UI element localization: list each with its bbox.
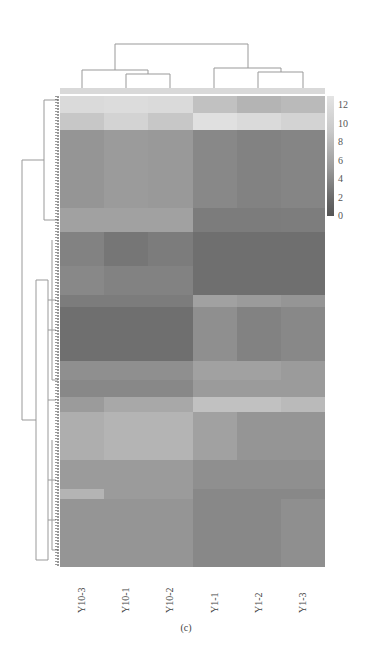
heatmap-cell xyxy=(281,295,325,307)
heatmap-cell xyxy=(281,499,325,567)
colorbar-tick-label: 6 xyxy=(338,156,343,166)
heatmap-cell xyxy=(148,266,192,295)
heatmap-cell xyxy=(237,96,281,113)
heatmap-cell xyxy=(148,489,192,499)
heatmap-cell xyxy=(104,499,148,567)
column-label: Y1-1 xyxy=(209,592,220,613)
heatmap-cell xyxy=(60,460,104,489)
heatmap-cell xyxy=(193,130,237,208)
heatmap-cell xyxy=(237,489,281,499)
colorbar-tick-label: 12 xyxy=(338,100,348,110)
heatmap-cell xyxy=(237,266,281,295)
heatmap-cell xyxy=(148,361,192,380)
heatmap-cell xyxy=(104,96,148,113)
column-annotation-bar xyxy=(60,88,325,94)
heatmap-cell xyxy=(148,130,192,208)
heatmap-cell xyxy=(60,295,104,307)
heatmap-cell xyxy=(60,130,104,208)
heatmap-cell xyxy=(193,380,237,397)
heatmap-cell xyxy=(60,266,104,295)
heatmap-figure: 121086420 Y10-3Y10-1Y10-2Y1-1Y1-2Y1-3 (c… xyxy=(0,0,372,657)
colorbar-tick-label: 8 xyxy=(338,137,343,147)
heatmap-cell xyxy=(281,130,325,208)
heatmap-cell xyxy=(281,232,325,266)
heatmap-cell xyxy=(237,113,281,130)
heatmap-cell xyxy=(60,412,104,461)
heatmap-cell xyxy=(104,412,148,461)
heatmap-column xyxy=(104,96,148,567)
heatmap-cell xyxy=(104,489,148,499)
heatmap-cell xyxy=(148,232,192,266)
column-label: Y1-2 xyxy=(253,592,264,613)
heatmap-body xyxy=(60,96,325,567)
column-label: Y10-1 xyxy=(120,587,131,613)
colorbar-tick-label: 4 xyxy=(338,174,343,184)
heatmap-cell xyxy=(60,113,104,130)
heatmap-cell xyxy=(193,113,237,130)
heatmap-cell xyxy=(148,460,192,489)
heatmap-cell xyxy=(237,232,281,266)
heatmap-cell xyxy=(193,361,237,380)
heatmap-cell xyxy=(193,460,237,489)
heatmap-cell xyxy=(281,460,325,489)
column-label: Y10-3 xyxy=(76,587,87,613)
heatmap-cell xyxy=(281,208,325,232)
heatmap-cell xyxy=(237,307,281,360)
heatmap-cell xyxy=(104,307,148,360)
heatmap-column xyxy=(148,96,192,567)
heatmap-column xyxy=(281,96,325,567)
heatmap-cell xyxy=(104,113,148,130)
heatmap-cell xyxy=(237,412,281,461)
colorbar-tick-label: 2 xyxy=(338,193,343,203)
heatmap-cell xyxy=(281,113,325,130)
heatmap-cell xyxy=(148,307,192,360)
heatmap-cell xyxy=(104,208,148,232)
heatmap-cell xyxy=(60,208,104,232)
heatmap-cell xyxy=(193,412,237,461)
heatmap-cell xyxy=(148,412,192,461)
heatmap-cell xyxy=(104,361,148,380)
heatmap-cell xyxy=(193,307,237,360)
colorbar-tick-label: 10 xyxy=(338,119,348,129)
heatmap-cell xyxy=(104,266,148,295)
heatmap-cell xyxy=(281,412,325,461)
heatmap-cell xyxy=(148,499,192,567)
heatmap-cell xyxy=(148,208,192,232)
heatmap-cell xyxy=(237,208,281,232)
column-label: Y1-3 xyxy=(297,592,308,613)
heatmap-column xyxy=(60,96,104,567)
colorbar xyxy=(327,96,334,216)
heatmap-cell xyxy=(237,460,281,489)
heatmap-column xyxy=(193,96,237,567)
heatmap-cell xyxy=(148,397,192,412)
colorbar-tick-label: 0 xyxy=(338,211,343,221)
heatmap-cell xyxy=(281,361,325,380)
heatmap-cell xyxy=(193,499,237,567)
heatmap-cell xyxy=(60,96,104,113)
heatmap-cell xyxy=(148,295,192,307)
heatmap-cell xyxy=(193,397,237,412)
heatmap-cell xyxy=(148,113,192,130)
heatmap-cell xyxy=(281,96,325,113)
heatmap-cell xyxy=(237,380,281,397)
heatmap-cell xyxy=(60,397,104,412)
heatmap-cell xyxy=(104,232,148,266)
heatmap-cell xyxy=(60,499,104,567)
heatmap-cell xyxy=(193,295,237,307)
heatmap-cell xyxy=(60,232,104,266)
heatmap-cell xyxy=(104,295,148,307)
heatmap-cell xyxy=(104,380,148,397)
heatmap-cell xyxy=(237,499,281,567)
heatmap-cell xyxy=(237,397,281,412)
heatmap-column xyxy=(237,96,281,567)
heatmap-cell xyxy=(104,397,148,412)
heatmap-cell xyxy=(104,460,148,489)
heatmap-cell xyxy=(281,266,325,295)
heatmap-cell xyxy=(281,489,325,499)
heatmap-cell xyxy=(60,489,104,499)
heatmap-cell xyxy=(281,307,325,360)
heatmap-cell xyxy=(281,380,325,397)
heatmap-cell xyxy=(60,361,104,380)
heatmap-cell xyxy=(148,96,192,113)
heatmap-cell xyxy=(104,130,148,208)
